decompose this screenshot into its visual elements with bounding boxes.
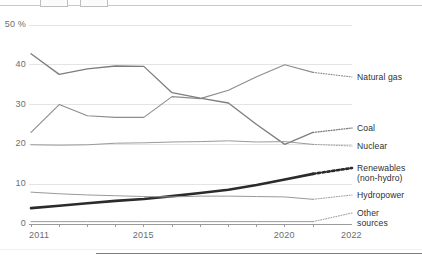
legend-label-other: Other sources [357,208,388,228]
series-line-natural-gas [31,65,313,133]
y-axis-label-20: 20 [0,138,26,148]
y-axis-label-0: 0 [0,218,26,228]
x-axis-label-2020: 2020 [274,230,295,240]
x-axis-label-2015: 2015 [133,230,154,240]
series-leader-other [313,213,352,222]
y-axis-label-30: 30 [0,99,26,109]
series-line-renewables [31,174,313,208]
series-line-coal [31,54,313,145]
series-leader-natural-gas [313,72,352,77]
x-axis-label-2022: 2022 [341,230,362,240]
legend-label-coal: Coal [357,123,375,133]
legend-label-hydropower: Hydropower [357,190,404,200]
y-axis-label-10: 10 [0,178,26,188]
bottom-divider-faint [0,249,422,250]
legend-label-nuclear: Nuclear [357,141,387,151]
legend-label-renewables: Renewables (non-hydro) [357,163,405,183]
x-axis-label-2011: 2011 [29,230,49,240]
chart-screenshot: 50 %403020100 2011201520202022 Natural g… [0,0,422,262]
series-leader-renewables [313,168,352,174]
series-leader-coal [313,128,352,132]
legend-label-natural-gas: Natural gas [357,72,402,82]
series-leader-hydropower [313,195,352,199]
y-axis-label-40: 40 [0,59,26,69]
y-axis-label-50: 50 % [0,19,26,29]
bottom-divider [96,253,422,254]
